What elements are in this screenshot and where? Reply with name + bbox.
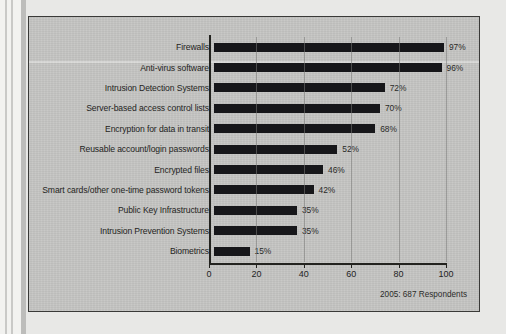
bar-track: 97% (214, 37, 469, 57)
chart-figure: Firewalls97%Anti-virus software96%Intrus… (28, 16, 480, 312)
bar-value-label: 46% (328, 165, 345, 175)
bar (214, 145, 337, 154)
bar-chart-plot: Firewalls97%Anti-virus software96%Intrus… (29, 17, 479, 311)
bar-rows-container: Firewalls97%Anti-virus software96%Intrus… (37, 37, 469, 262)
bar-category-label: Server-based access control lists (37, 103, 214, 113)
bar-row: Server-based access control lists70% (37, 98, 469, 118)
gutter-line-2 (11, 0, 13, 334)
y-axis-line (209, 35, 211, 263)
x-tick-label: 100 (438, 269, 453, 279)
bar-row: Biometrics15% (37, 241, 469, 261)
x-tick-label: 0 (206, 269, 211, 279)
chart-footnote: 2005: 687 Respondents (380, 290, 467, 299)
bar-value-label: 15% (255, 246, 272, 256)
bar-track: 70% (214, 98, 469, 118)
bar-value-label: 35% (302, 226, 319, 236)
bar-category-label: Encrypted files (37, 165, 214, 175)
bar (214, 124, 375, 133)
bar-row: Firewalls97% (37, 37, 469, 57)
bar-category-label: Biometrics (37, 246, 214, 256)
bar-category-label: Public Key Infrastructure (37, 205, 214, 215)
bar-track: 46% (214, 159, 469, 179)
x-tick-label: 20 (251, 269, 261, 279)
bar-track: 15% (214, 241, 469, 261)
x-tick-mark (256, 265, 257, 268)
x-tick-mark (351, 265, 352, 268)
bar-row: Encryption for data in transit68% (37, 119, 469, 139)
bar-value-label: 35% (302, 205, 319, 215)
x-tick-mark (399, 265, 400, 268)
x-tick-mark (209, 265, 210, 268)
bar-value-label: 97% (449, 42, 466, 52)
bar-category-label: Intrusion Prevention Systems (37, 226, 214, 236)
bar-track: 42% (214, 180, 469, 200)
bar-value-label: 72% (390, 83, 407, 93)
bar-value-label: 52% (342, 144, 359, 154)
bar (214, 206, 297, 215)
bar-row: Public Key Infrastructure35% (37, 200, 469, 220)
bar (214, 247, 250, 256)
bar-track: 35% (214, 221, 469, 241)
x-axis-ticks: 020406080100 (209, 265, 446, 283)
bar-category-label: Intrusion Detection Systems (37, 83, 214, 93)
gutter-line-1 (5, 0, 7, 334)
bar-category-label: Encryption for data in transit (37, 124, 214, 134)
x-tick-mark (304, 265, 305, 268)
bar (214, 43, 444, 52)
x-tick-label: 60 (346, 269, 356, 279)
bar-value-label: 42% (319, 185, 336, 195)
bar-row: Intrusion Detection Systems72% (37, 78, 469, 98)
bar-track: 52% (214, 139, 469, 159)
bar (214, 83, 385, 92)
bar-row: Reusable account/login passwords52% (37, 139, 469, 159)
x-tick-mark (446, 265, 447, 268)
bar-value-label: 68% (380, 124, 397, 134)
bar-category-label: Smart cards/other one-time password toke… (37, 185, 214, 195)
bar-row: Encrypted files46% (37, 159, 469, 179)
bar (214, 104, 380, 113)
bar-track: 35% (214, 200, 469, 220)
bar-track: 72% (214, 78, 469, 98)
gutter-line-3 (21, 0, 26, 334)
bar-category-label: Firewalls (37, 42, 214, 52)
bar (214, 226, 297, 235)
bar (214, 165, 323, 174)
bar-value-label: 70% (385, 103, 402, 113)
bar (214, 185, 314, 194)
bar-category-label: Reusable account/login passwords (37, 144, 214, 154)
bar-row: Anti-virus software96% (37, 57, 469, 77)
bar-track: 96% (214, 57, 469, 77)
x-tick-label: 40 (299, 269, 309, 279)
bar-value-label: 96% (447, 63, 464, 73)
x-tick-label: 80 (394, 269, 404, 279)
bar-category-label: Anti-virus software (37, 63, 214, 73)
bar (214, 63, 442, 72)
bar-row: Intrusion Prevention Systems35% (37, 221, 469, 241)
bar-row: Smart cards/other one-time password toke… (37, 180, 469, 200)
page-gutter-scan-artifact (0, 0, 26, 334)
bar-track: 68% (214, 119, 469, 139)
